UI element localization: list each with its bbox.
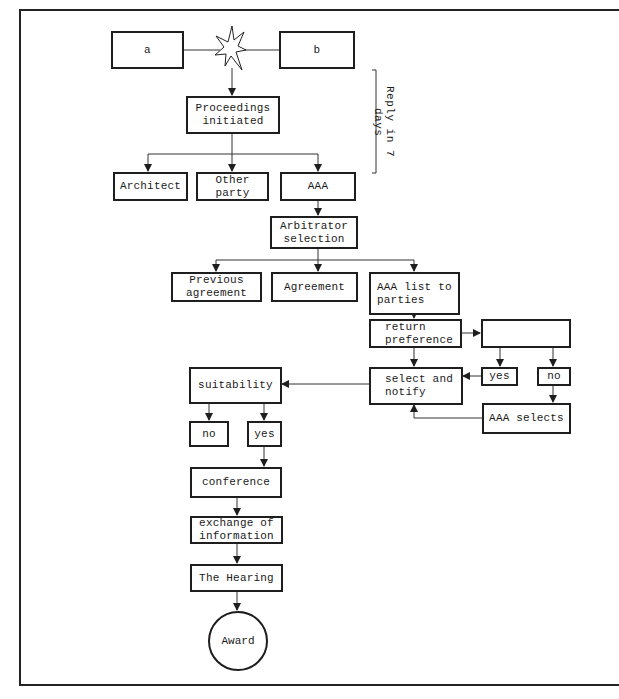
exchange-of-information-box: exchange of information xyxy=(190,516,283,544)
party-b-box: b xyxy=(279,31,355,69)
empty-decision-box xyxy=(481,319,571,348)
return-preference-box: return preference xyxy=(369,319,462,348)
arbitrator-selection-box: Arbitrator selection xyxy=(270,216,358,249)
yes-right-box: yes xyxy=(481,367,518,386)
party-a-box: a xyxy=(111,31,184,69)
conflict-star-icon xyxy=(215,26,246,70)
the-hearing-box: The Hearing xyxy=(190,564,283,592)
proceedings-initiated-box: Proceedings initiated xyxy=(186,96,280,134)
architect-box: Architect xyxy=(113,172,188,201)
suitability-box: suitability xyxy=(189,367,282,404)
agreement-box: Agreement xyxy=(271,272,358,302)
previous-agreement-box: Previous agreement xyxy=(171,272,262,302)
other-party-box: Other party xyxy=(196,172,269,201)
award-node: Award xyxy=(208,611,268,671)
no-left-box: no xyxy=(189,421,229,447)
aaa-box: AAA xyxy=(280,172,356,201)
aaa-list-box: AAA list to parties xyxy=(369,272,460,315)
conference-box: conference xyxy=(190,467,282,498)
yes-left-box: yes xyxy=(247,421,282,447)
reply-annotation: Reply in 7 days xyxy=(380,72,396,172)
no-right-box: no xyxy=(537,367,571,386)
select-and-notify-box: select and notify xyxy=(369,367,463,405)
aaa-selects-box: AAA selects xyxy=(482,403,571,434)
